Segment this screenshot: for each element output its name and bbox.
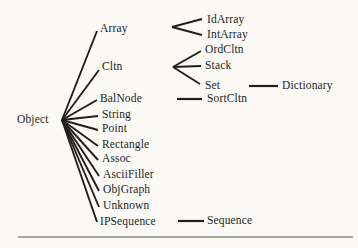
edge-object-to-array [62,31,97,120]
edge-cltn-to-set [173,67,200,84]
class-label-asciifiller: AsciiFiller [103,169,154,181]
class-label-cltn: Cltn [102,61,122,73]
edge-object-to-cltn [62,70,99,120]
edge-array-to-idarray [172,19,202,27]
class-label-objgraph: ObjGraph [103,184,150,196]
diagram-edges [0,0,358,248]
class-label-stack: Stack [205,60,231,72]
class-label-ipsequence: IPSequence [100,216,156,228]
class-label-set: Set [205,80,220,92]
class-label-sequence: Sequence [207,215,252,227]
class-label-balnode: BalNode [100,93,142,105]
class-label-unknown: Unknown [103,200,149,212]
class-hierarchy-diagram: ObjectArrayCltnBalNodeStringPointRectang… [0,0,358,248]
class-label-sortcltn: SortCltn [207,93,247,105]
class-label-dictionary: Dictionary [282,80,333,92]
edge-cltn-to-stack [173,66,201,67]
class-label-ordcltn: OrdCltn [205,44,244,56]
edge-object-to-ipsequence [62,120,97,222]
class-label-point: Point [102,123,127,134]
class-label-intarray: IntArray [207,29,248,41]
edge-array-to-intarray [172,27,202,35]
class-label-array: Array [100,23,128,35]
class-label-string: String [102,109,131,121]
class-label-assoc: Assoc [102,153,131,165]
edge-cltn-to-ordcltn [173,51,201,67]
class-label-rectangle: Rectangle [102,139,149,151]
class-label-object: Object [17,114,49,126]
class-label-idarray: IdArray [207,14,244,26]
